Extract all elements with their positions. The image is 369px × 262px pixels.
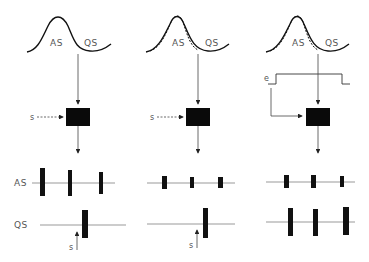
qs-stimulus-label: s — [69, 243, 74, 252]
qs-burst — [203, 208, 208, 238]
processor-block — [186, 108, 210, 126]
as-bursts — [40, 168, 103, 196]
qs-bursts — [288, 207, 349, 236]
panel-2: AS QS s s — [146, 16, 235, 250]
stimulus-label: s — [150, 113, 155, 122]
processor-block — [306, 108, 330, 126]
curve-label-qs: QS — [325, 38, 339, 48]
sleep-state-curve — [27, 17, 111, 52]
trace-label-as: AS — [14, 178, 27, 188]
stimulus-label: s — [30, 113, 35, 122]
curve-label-qs: QS — [205, 38, 219, 48]
processor-block — [66, 108, 90, 126]
curve-label-as: AS — [50, 38, 63, 48]
as-bursts — [284, 175, 344, 188]
panel-1: AS QS s AS QS s — [14, 17, 126, 252]
diagram-canvas: AS QS s AS QS s AS QS s — [0, 0, 369, 262]
curve-label-qs: QS — [84, 38, 98, 48]
qs-burst — [82, 210, 88, 238]
external-step-signal — [268, 74, 350, 84]
curve-label-as: AS — [292, 38, 305, 48]
qs-stimulus-label: s — [189, 241, 194, 250]
panel-3: AS QS e — [264, 16, 355, 236]
as-bursts — [162, 176, 223, 189]
external-signal-label: e — [264, 74, 269, 83]
trace-label-qs: QS — [14, 220, 28, 230]
curve-label-as: AS — [172, 38, 185, 48]
